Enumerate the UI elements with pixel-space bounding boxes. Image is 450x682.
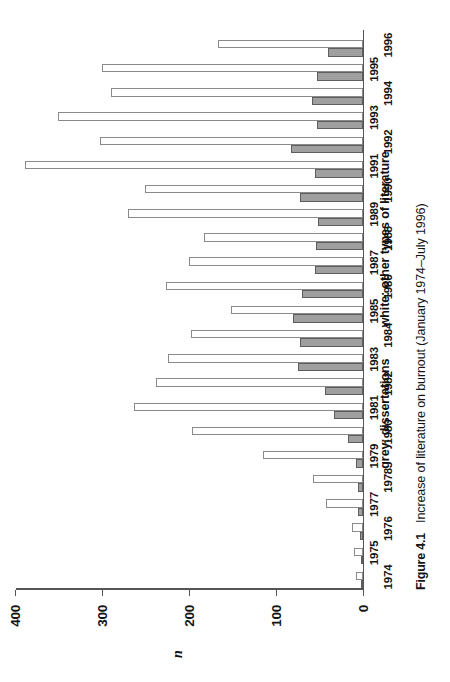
bar-group — [15, 564, 363, 588]
bar-dissertations-1983 — [298, 363, 363, 371]
y-tick-0: 0 — [363, 590, 364, 596]
y-tick-label: 400 — [8, 605, 23, 627]
bar-group — [15, 33, 363, 57]
bar-dissertations-1991 — [315, 169, 363, 177]
bar-group — [15, 540, 363, 564]
bar-other-literature-1992 — [100, 137, 363, 145]
bar-group — [15, 371, 363, 395]
y-tick-100: 100 — [276, 590, 277, 596]
y-tick-label: 200 — [182, 605, 197, 627]
bar-group — [15, 57, 363, 81]
bar-group — [15, 516, 363, 540]
bar-other-literature-1995 — [102, 64, 363, 72]
bar-other-literature-1981 — [134, 403, 363, 411]
bar-group — [15, 468, 363, 492]
bar-group — [15, 105, 363, 129]
bar-group — [15, 250, 363, 274]
bar-dissertations-1993 — [317, 121, 363, 129]
caption-text: Increase of literature on burnout (Janua… — [414, 204, 428, 523]
bar-group — [15, 492, 363, 516]
bar-group — [15, 202, 363, 226]
y-tick-label: 0 — [356, 605, 371, 612]
bar-group — [15, 81, 363, 105]
figure-caption: Figure 4.1Increase of literature on burn… — [414, 20, 428, 590]
caption-number: Figure 4.1 — [414, 533, 428, 590]
y-tick-200: 200 — [189, 590, 190, 596]
bar-group — [15, 226, 363, 250]
bar-dissertations-1994 — [312, 97, 362, 105]
plot-area: 0100200300400 19741975197619771978197919… — [16, 30, 364, 590]
bar-dissertations-1982 — [325, 387, 362, 395]
bar-dissertations-1990 — [300, 193, 363, 201]
bar-group — [15, 153, 363, 177]
bar-group — [15, 419, 363, 443]
bar-dissertations-1980 — [348, 435, 363, 443]
bar-other-literature-1983 — [168, 354, 363, 362]
bar-dissertations-1985 — [293, 314, 363, 322]
bar-other-literature-1993 — [58, 112, 363, 120]
bar-group — [15, 323, 363, 347]
bar-dissertations-1975 — [361, 556, 363, 564]
bar-other-literature-1978 — [313, 475, 363, 483]
bar-group — [15, 274, 363, 298]
bar-other-literature-1985 — [231, 306, 363, 314]
bar-other-literature-1989 — [128, 209, 363, 217]
bar-group — [15, 298, 363, 322]
figure-4-1: n 0100200300400 197419751976197719781979… — [0, 0, 450, 682]
bar-other-literature-1976 — [352, 523, 362, 531]
bar-group — [15, 347, 363, 371]
y-tick-300: 300 — [102, 590, 103, 596]
y-tick-400: 400 — [15, 590, 16, 596]
bar-dissertations-1986 — [302, 290, 363, 298]
bar-other-literature-1990 — [145, 185, 363, 193]
bar-dissertations-1977 — [358, 508, 362, 516]
bar-other-literature-1977 — [326, 499, 363, 507]
bar-dissertations-1978 — [358, 483, 363, 491]
bar-dissertations-1992 — [291, 145, 362, 153]
y-axis-title: n — [170, 650, 186, 658]
bar-other-literature-1974 — [356, 572, 363, 580]
bar-dissertations-1996 — [328, 48, 363, 56]
legend-item-white: white: other types of literature — [378, 151, 392, 327]
bar-other-literature-1987 — [189, 257, 363, 265]
bar-other-literature-1994 — [111, 88, 362, 96]
bar-dissertations-1989 — [318, 218, 363, 226]
bar-dissertations-1995 — [317, 73, 363, 81]
bar-other-literature-1986 — [166, 282, 363, 290]
bar-group — [15, 178, 363, 202]
rotated-page-stage: n 0100200300400 197419751976197719781979… — [0, 0, 450, 682]
bar-dissertations-1981 — [334, 411, 363, 419]
bar-other-literature-1988 — [204, 233, 362, 241]
legend-item-grey: grey: dissertations — [378, 359, 392, 469]
bar-group — [15, 395, 363, 419]
bar-other-literature-1991 — [25, 161, 363, 169]
bar-other-literature-1996 — [218, 40, 363, 48]
bar-dissertations-1976 — [360, 532, 363, 540]
bar-dissertations-1984 — [300, 338, 363, 346]
bar-other-literature-1979 — [263, 451, 363, 459]
bar-dissertations-1988 — [316, 242, 363, 250]
y-tick-label: 100 — [269, 605, 284, 627]
bar-group — [15, 443, 363, 467]
figure-page: n 0100200300400 197419751976197719781979… — [0, 0, 450, 682]
bar-series-container — [15, 33, 363, 589]
y-axis-line — [16, 589, 364, 591]
legend: grey: dissertations white: other types o… — [378, 30, 392, 590]
bar-other-literature-1984 — [191, 330, 363, 338]
bar-dissertations-1987 — [315, 266, 363, 274]
bar-other-literature-1980 — [192, 427, 363, 435]
bar-dissertations-1974 — [361, 580, 363, 588]
bar-group — [15, 129, 363, 153]
y-tick-label: 300 — [95, 605, 110, 627]
bar-dissertations-1979 — [356, 459, 363, 467]
bar-other-literature-1982 — [156, 378, 363, 386]
bar-other-literature-1975 — [354, 548, 363, 556]
x-axis-line — [363, 30, 364, 590]
